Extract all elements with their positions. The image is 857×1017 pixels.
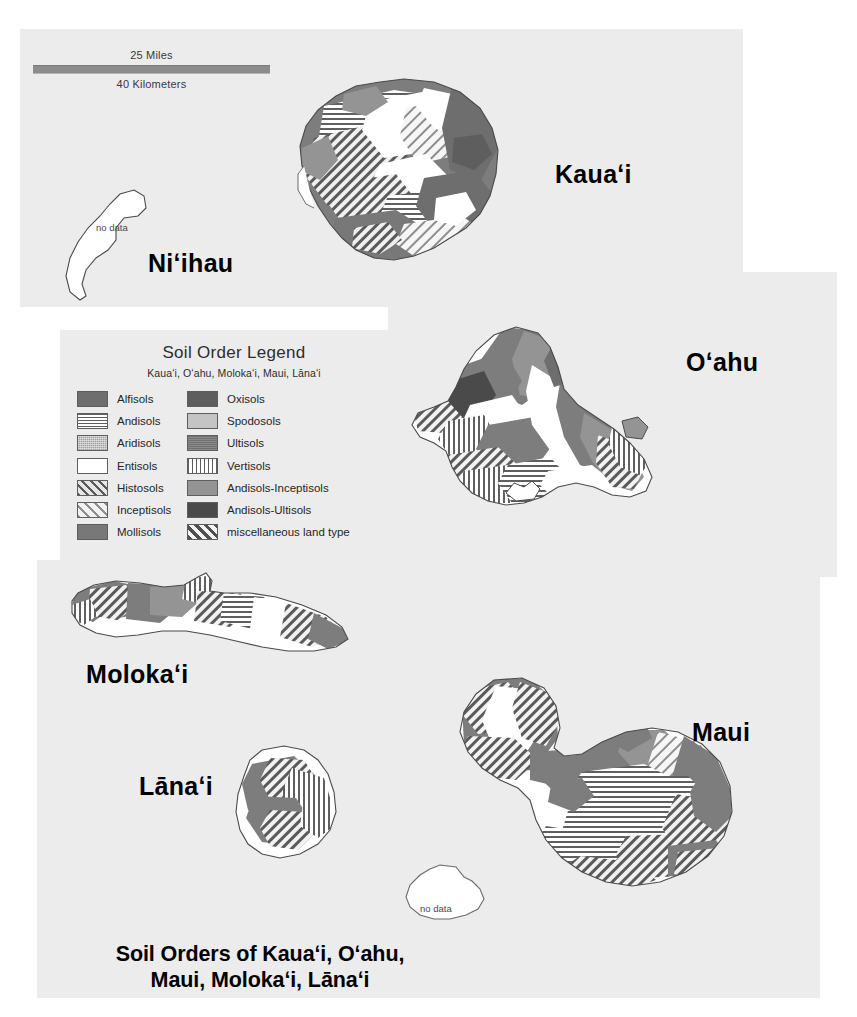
scale-bar-graphic xyxy=(33,65,270,74)
island-oahu xyxy=(408,325,678,565)
legend-swatch-histosols xyxy=(77,480,108,496)
niihau-coastline xyxy=(66,190,146,300)
legend-swatch-andisols-inceptisols xyxy=(187,480,218,496)
scale-bar-miles-label: 25 Miles xyxy=(33,48,270,62)
legend-label-alfisols: Alfisols xyxy=(117,393,153,405)
legend-item: Andisols xyxy=(77,410,187,432)
legend-item: Andisols-Ultisols xyxy=(187,499,350,521)
legend-swatch-alfisols xyxy=(77,391,108,407)
lanai-soil-regions xyxy=(218,742,358,872)
oahu-soil-regions xyxy=(408,325,678,565)
legend-label-andisols-ultisols: Andisols-Ultisols xyxy=(227,504,311,516)
legend-label-inceptisols: Inceptisols xyxy=(117,504,171,516)
kahoolawe-no-data-label: no data xyxy=(420,903,452,914)
legend-label-andisols: Andisols xyxy=(117,415,160,427)
legend-label-spodosols: Spodosols xyxy=(227,415,281,427)
legend-column-left: Alfisols Andisols Aridisols Entisols His… xyxy=(77,388,187,543)
island-niihau xyxy=(58,184,168,304)
legend-item: Entisols xyxy=(77,455,187,477)
legend-title: Soil Order Legend xyxy=(60,343,408,363)
island-lanai xyxy=(218,742,358,872)
legend-item: miscellaneous land type xyxy=(187,521,350,543)
legend-item: Spodosols xyxy=(187,410,350,432)
scale-bar: 25 Miles 40 Kilometers xyxy=(33,48,270,91)
island-kauai xyxy=(284,78,534,268)
island-label-oahu: Oʻahu xyxy=(686,348,758,377)
legend-item: Oxisols xyxy=(187,388,350,410)
legend-swatch-ultisols xyxy=(187,435,218,451)
legend-label-aridisols: Aridisols xyxy=(117,437,160,449)
legend-item: Inceptisols xyxy=(77,499,187,521)
island-label-lanai: Lānaʻi xyxy=(139,772,213,801)
map-title: Soil Orders of Kauaʻi, Oʻahu, Maui, Molo… xyxy=(60,941,460,993)
island-label-kauai: Kauaʻi xyxy=(555,160,632,189)
soil-order-legend: Soil Order Legend Kauaʻi, Oʻahu, Molokaʻ… xyxy=(60,330,408,560)
legend-swatch-miscellaneous-land-type xyxy=(187,524,218,540)
legend-item: Aridisols xyxy=(77,432,187,454)
island-label-niihau: Niʻihau xyxy=(148,249,233,278)
legend-swatch-oxisols xyxy=(187,391,218,407)
legend-swatch-inceptisols xyxy=(77,502,108,518)
niihau-no-data-label: no data xyxy=(96,222,128,233)
legend-label-histosols: Histosols xyxy=(117,482,164,494)
legend-label-vertisols: Vertisols xyxy=(227,460,270,472)
legend-item: Alfisols xyxy=(77,388,187,410)
island-label-maui: Maui xyxy=(692,718,750,747)
legend-item: Ultisols xyxy=(187,432,350,454)
map-title-line-1: Soil Orders of Kauaʻi, Oʻahu, xyxy=(60,941,460,967)
island-label-molokai: Molokaʻi xyxy=(86,660,188,689)
legend-swatch-spodosols xyxy=(187,413,218,429)
legend-label-mollisols: Mollisols xyxy=(117,526,161,538)
legend-swatch-andisols-ultisols xyxy=(187,502,218,518)
legend-swatch-mollisols xyxy=(77,524,108,540)
legend-swatch-entisols xyxy=(77,458,108,474)
legend-label-andisols-inceptisols: Andisols-Inceptisols xyxy=(227,482,329,494)
legend-swatch-aridisols xyxy=(77,435,108,451)
island-molokai xyxy=(64,571,354,671)
legend-item: Vertisols xyxy=(187,455,350,477)
legend-swatch-andisols xyxy=(77,413,108,429)
legend-swatch-vertisols xyxy=(187,458,218,474)
legend-item: Mollisols xyxy=(77,521,187,543)
map-title-line-2: Maui, Molokaʻi, Lānaʻi xyxy=(60,967,460,993)
legend-item: Andisols-Inceptisols xyxy=(187,477,350,499)
molokai-soil-regions xyxy=(64,571,354,671)
legend-label-ultisols: Ultisols xyxy=(227,437,264,449)
legend-item: Histosols xyxy=(77,477,187,499)
island-kahoolawe xyxy=(392,861,502,931)
scale-bar-kilometers-label: 40 Kilometers xyxy=(33,77,270,91)
legend-label-oxisols: Oxisols xyxy=(227,393,265,405)
legend-subtitle: Kauaʻi, Oʻahu, Molokaʻi, Maui, Lānaʻi xyxy=(60,367,408,379)
legend-label-miscellaneous-land-type: miscellaneous land type xyxy=(227,526,350,538)
legend-column-right: Oxisols Spodosols Ultisols Vertisols And… xyxy=(187,388,350,543)
legend-label-entisols: Entisols xyxy=(117,460,157,472)
